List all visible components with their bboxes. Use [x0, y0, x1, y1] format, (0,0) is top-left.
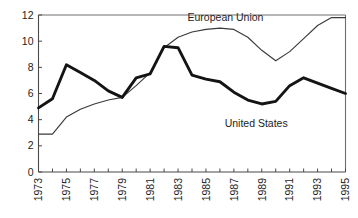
- x-tick-label: 1993: [311, 178, 323, 202]
- y-tick-label: 6: [28, 87, 34, 99]
- x-tick-label: 1975: [60, 178, 72, 202]
- x-tick-label: 1979: [116, 178, 128, 202]
- x-tick-label: 1985: [200, 178, 212, 202]
- y-tick-label: 4: [28, 113, 34, 125]
- x-tick-label: 1977: [88, 178, 100, 202]
- x-tick-label: 1981: [144, 178, 156, 202]
- series-line-united-states: [39, 46, 346, 107]
- y-tick-label: 2: [28, 139, 34, 151]
- y-tick-label: 0: [28, 166, 34, 178]
- x-tick-label: 1989: [256, 178, 268, 202]
- x-axis-tick-labels: 1973197519771979198119831985198719891991…: [32, 178, 351, 202]
- plot-frame: [39, 15, 346, 172]
- series-annotation-label: United States: [225, 117, 288, 129]
- x-tick-label: 1983: [172, 178, 184, 202]
- series-annotation-label: European Union: [188, 11, 264, 23]
- x-tick-label: 1973: [32, 178, 44, 202]
- x-tick-label: 1991: [283, 178, 295, 202]
- y-tick-label: 10: [22, 35, 34, 47]
- y-axis-tick-labels: 024681012: [22, 9, 34, 178]
- y-tick-label: 8: [28, 61, 34, 73]
- line-chart: 024681012 197319751977197919811983198519…: [0, 0, 358, 218]
- x-tick-label: 1995: [339, 178, 351, 202]
- chart-container: 024681012 197319751977197919811983198519…: [0, 0, 358, 218]
- y-tick-label: 12: [22, 9, 34, 21]
- series-annotations: European UnionUnited States: [188, 11, 288, 129]
- x-tick-label: 1987: [228, 178, 240, 202]
